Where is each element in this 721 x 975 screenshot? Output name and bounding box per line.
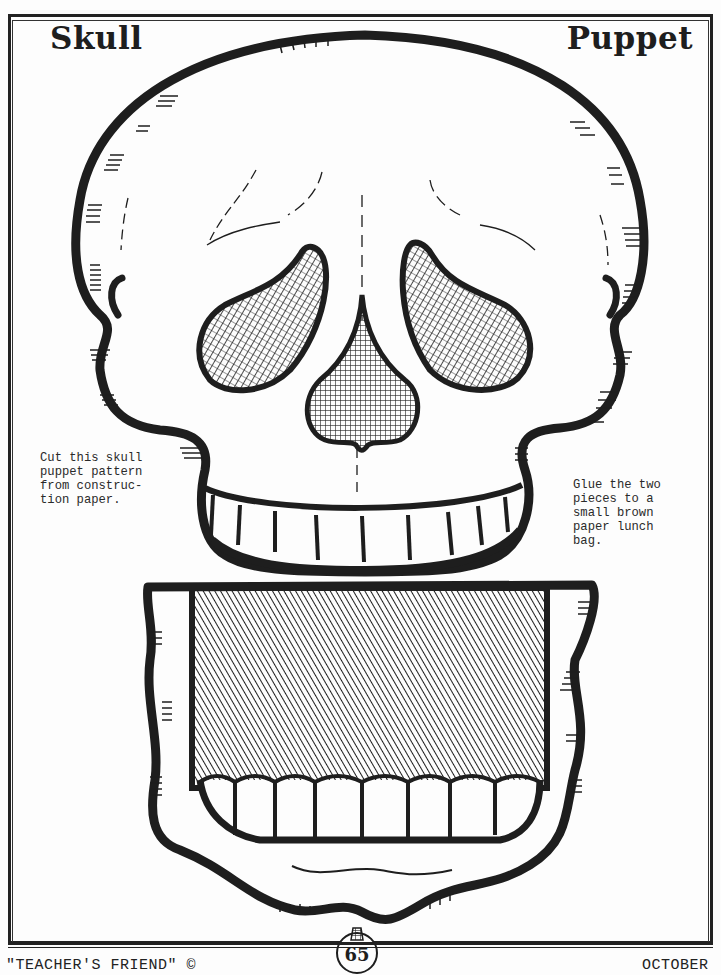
month-label: OCTOBER (642, 957, 709, 974)
instruction-cut: Cut this skull puppet pattern from const… (40, 451, 142, 507)
instruction-glue: Glue the two pieces to a small brown pap… (573, 478, 661, 548)
upper-teeth-gumline (205, 485, 522, 508)
left-eye-socket (199, 247, 326, 391)
chin-line (292, 866, 452, 874)
skull-upper-piece (76, 35, 644, 572)
publisher-credit: "TEACHER'S FRIEND" © (6, 957, 196, 974)
nose-cavity (307, 295, 417, 450)
skull-jaw-piece (147, 585, 594, 919)
worksheet-page: Skull Puppet (0, 0, 721, 975)
page-number: 65 (336, 944, 378, 965)
right-eye-socket (403, 243, 531, 390)
mouth-interior (192, 588, 547, 788)
